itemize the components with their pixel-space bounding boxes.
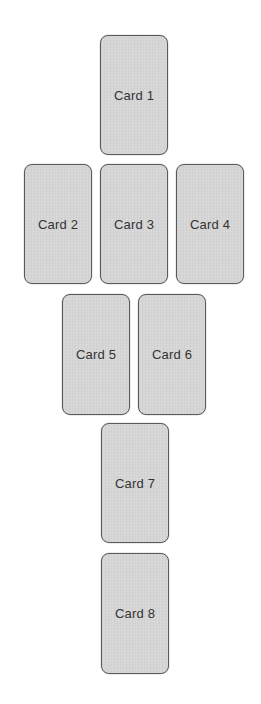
card-8: Card 8 — [101, 553, 169, 674]
card-label: Card 2 — [38, 217, 78, 232]
card-label: Card 5 — [76, 347, 116, 362]
card-label: Card 8 — [115, 606, 155, 621]
card-label: Card 7 — [115, 476, 155, 491]
card-5: Card 5 — [62, 294, 130, 415]
card-1: Card 1 — [100, 35, 168, 155]
card-4: Card 4 — [176, 164, 244, 284]
card-label: Card 4 — [190, 217, 230, 232]
card-7: Card 7 — [101, 423, 169, 543]
card-6: Card 6 — [138, 294, 206, 415]
card-label: Card 1 — [114, 88, 154, 103]
card-label: Card 3 — [114, 217, 154, 232]
card-3: Card 3 — [100, 164, 168, 284]
card-label: Card 6 — [152, 347, 192, 362]
card-2: Card 2 — [24, 164, 92, 284]
